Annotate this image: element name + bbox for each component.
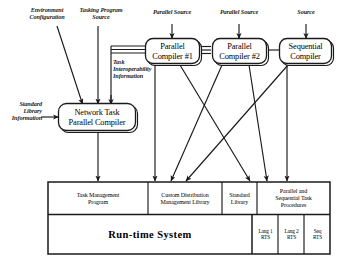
cell-seq-rts: Seq RTS bbox=[305, 215, 330, 253]
label-environment-configuration: Environment Configuration bbox=[16, 6, 78, 20]
label-source: Source bbox=[282, 8, 330, 15]
cell-custom-distribution-management-library: Custom Distribution Management Library bbox=[149, 183, 221, 214]
arrow-pc1-to-task-procedures bbox=[180, 65, 250, 181]
text-sequential-compiler: Sequential Compiler bbox=[279, 42, 332, 61]
diagram-canvas: Environment Configuration Tasking Progra… bbox=[0, 0, 341, 263]
arrow-pc2-to-task-procedures bbox=[249, 65, 267, 181]
arrow-seq-to-custom-dist bbox=[186, 65, 288, 181]
text-run-time-system: Run-time System bbox=[49, 215, 251, 253]
text-parallel-compiler-2: Parallel Compiler #2 bbox=[212, 42, 267, 61]
cell-lang-2-rts: Lang 2 RTS bbox=[279, 215, 304, 253]
text-network-task-parallel-compiler: Network Task Parallel Compiler bbox=[58, 108, 136, 127]
cell-parallel-and-sequential-task-procedures: Parallel and Sequential Task Procedures bbox=[258, 183, 329, 214]
label-parallel-source-2: Parallel Source bbox=[209, 8, 269, 15]
arrow-environment-configuration bbox=[57, 26, 83, 104]
label-standard-library-information: Standard Library Information bbox=[0, 100, 42, 122]
text-parallel-compiler-1: Parallel Compiler #1 bbox=[145, 42, 200, 61]
cell-task-management-program: Task Management Program bbox=[49, 183, 147, 214]
label-parallel-source-1: Parallel Source bbox=[142, 8, 202, 15]
cell-standard-library: Standard Library bbox=[223, 183, 256, 214]
label-task-interoperability-information: Task Interoperability Information bbox=[113, 58, 165, 80]
label-tasking-program-source: Tasking Program Source bbox=[70, 6, 132, 20]
cell-lang-1-rts: Lang 1 RTS bbox=[253, 215, 278, 253]
